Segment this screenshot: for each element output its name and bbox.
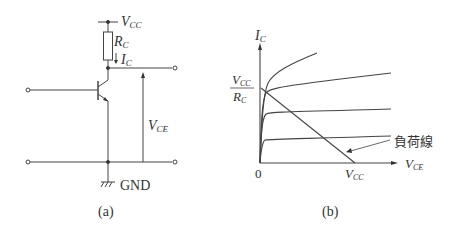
label-rc: RC — [113, 34, 130, 50]
circuit-labels: VCC RC IC VCE GND (a) — [98, 14, 169, 220]
terminal-bottom-right — [173, 160, 177, 164]
vce-arrow-icon — [141, 72, 145, 78]
label-vcc: VCC — [121, 14, 143, 30]
load-line — [261, 88, 355, 163]
curve-3 — [260, 109, 391, 163]
characteristic-graph — [258, 43, 398, 165]
y-axis-arrow-icon — [258, 43, 262, 50]
label-vce-axis: VCE — [405, 156, 423, 172]
label-vce: VCE — [148, 118, 169, 134]
label-gnd: GND — [120, 178, 150, 193]
ic-arrow-icon — [114, 60, 118, 64]
caption-a: (a) — [98, 204, 114, 220]
resistor-rc — [104, 32, 113, 60]
terminal-input — [26, 88, 30, 92]
label-origin: 0 — [255, 166, 262, 181]
label-ic: IC — [120, 52, 133, 68]
collector-diag — [98, 80, 108, 87]
label-vcc-x: VCC — [345, 166, 364, 182]
terminal-bottom-left — [26, 160, 30, 164]
load-line-leader — [347, 140, 390, 152]
label-load-line: 負荷線 — [394, 134, 433, 149]
x-axis-arrow-icon — [391, 161, 398, 165]
terminal-top-right — [173, 66, 177, 70]
label-vcc-over-rc-den: RC — [232, 89, 247, 105]
caption-b: (b) — [322, 204, 339, 220]
curve-2 — [260, 73, 391, 163]
leader-arrow-icon — [346, 148, 352, 153]
figure: VCC RC IC VCE GND (a) IC VCC RC 0 VCC VC… — [0, 0, 458, 234]
curve-1 — [260, 53, 317, 163]
circuit-diagram — [26, 20, 177, 187]
label-ic-axis: IC — [254, 28, 267, 44]
ground-icon — [101, 182, 115, 187]
label-vcc-over-rc-num: VCC — [232, 72, 251, 88]
